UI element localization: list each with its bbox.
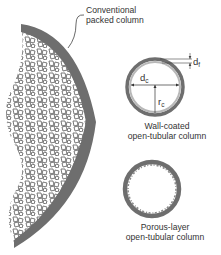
wall-label-line2: open-tubular column [114, 131, 220, 141]
wall-label-line1: Wall-coated [114, 121, 220, 131]
radius-sub: c [161, 101, 164, 108]
porous-layer-label: Porous-layer open-tubular column [112, 222, 218, 242]
packed-label-line1: Conventional [86, 5, 144, 15]
packed-column-graphic [6, 24, 96, 248]
porous-label-line2: open-tubular column [112, 232, 218, 242]
column-diameter-symbol: dc [140, 72, 149, 84]
packed-column-label: Conventional packed column [86, 5, 144, 25]
film-thickness-sub: f [198, 61, 200, 68]
packed-label-line2: packed column [86, 15, 144, 25]
porous-layer-column-graphic [125, 162, 179, 216]
porous-label-line1: Porous-layer [112, 222, 218, 232]
label-leader-line [68, 15, 84, 48]
diameter-sub: c [145, 77, 148, 84]
wall-coated-label: Wall-coated open-tubular column [114, 121, 220, 141]
column-radius-symbol: rc [158, 96, 164, 108]
film-thickness-symbol: df [193, 56, 200, 68]
